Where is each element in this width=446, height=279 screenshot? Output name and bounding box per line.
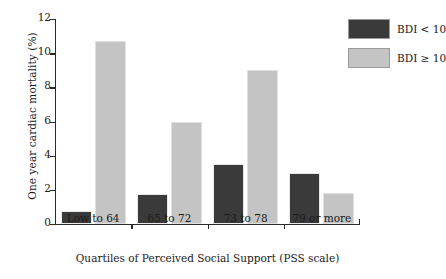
legend-label: BDI < 10 xyxy=(397,23,446,35)
y-tick-label: 12 xyxy=(38,11,51,23)
y-tick-label: 4 xyxy=(44,148,51,160)
y-tick-label: 6 xyxy=(44,114,51,126)
x-tick-label: 79 or more xyxy=(284,212,360,224)
x-axis-title: Quartiles of Perceived Social Support (P… xyxy=(55,252,360,264)
x-tick-mark xyxy=(131,224,132,229)
bars-layer xyxy=(55,19,360,224)
legend-item: BDI < 10 xyxy=(348,19,438,39)
light-swatch xyxy=(348,48,390,68)
x-tick-label: 73 to 78 xyxy=(208,212,284,224)
y-tick-label: 8 xyxy=(44,79,51,91)
bar xyxy=(95,41,126,224)
plot-area: 024681012 xyxy=(55,19,360,224)
legend-item: BDI ≥ 10 xyxy=(348,48,438,68)
x-tick-label: Low to 64 xyxy=(55,212,131,224)
y-tick-label: 2 xyxy=(44,182,51,194)
x-tick-label: 65 to 72 xyxy=(131,212,207,224)
chart-legend: BDI < 10BDI ≥ 10 xyxy=(348,19,438,77)
legend-label: BDI ≥ 10 xyxy=(397,52,446,64)
y-axis-title: One year cardiac mortality (%) xyxy=(26,16,38,216)
bar xyxy=(247,70,278,224)
x-tick-mark xyxy=(208,224,209,229)
dark-swatch xyxy=(348,19,390,39)
y-tick-label: 10 xyxy=(38,45,51,57)
y-tick-label: 0 xyxy=(44,216,51,228)
bar xyxy=(171,122,202,225)
x-tick-mark xyxy=(284,224,285,229)
